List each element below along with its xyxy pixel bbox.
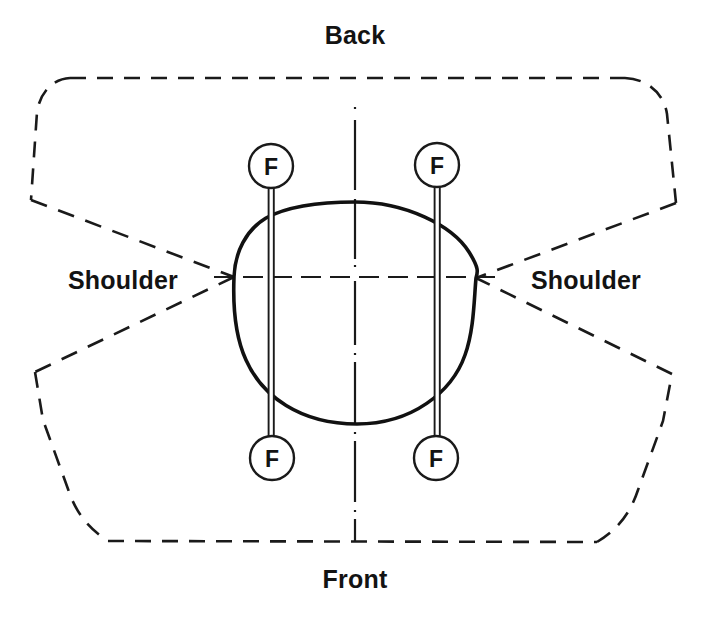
diagram-canvas: F F F F Back Front Shoulder Shoulder xyxy=(0,0,704,621)
marker-top-right[interactable]: F xyxy=(415,143,459,187)
back-panel-outline xyxy=(31,78,676,278)
label-shoulder-right: Shoulder xyxy=(531,266,641,294)
marker-top-left[interactable]: F xyxy=(249,144,293,188)
label-front: Front xyxy=(323,565,388,593)
label-shoulder-left: Shoulder xyxy=(68,266,178,294)
marker-label: F xyxy=(264,154,278,180)
label-back: Back xyxy=(325,21,386,49)
horse-blanket-fit-diagram: F F F F Back Front Shoulder Shoulder xyxy=(0,0,704,621)
stem-left xyxy=(268,186,274,438)
front-panel-outline xyxy=(35,277,672,542)
marker-label: F xyxy=(265,446,279,472)
stem-right xyxy=(434,185,440,438)
marker-label: F xyxy=(429,446,443,472)
marker-bottom-right[interactable]: F xyxy=(414,436,458,480)
marker-label: F xyxy=(430,153,444,179)
marker-bottom-left[interactable]: F xyxy=(250,436,294,480)
